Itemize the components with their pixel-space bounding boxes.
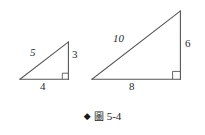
large-triangle-hypotenuse-edge [92, 11, 180, 79]
small-triangle-right-angle-icon [62, 73, 68, 79]
large-triangle-right-angle-icon [173, 71, 181, 79]
small-triangle-vertical-leg-label: 3 [72, 49, 78, 60]
figure-container: 5 3 4 10 6 8 ◆ 圖 5-4 [0, 0, 205, 135]
caption-cjk-label: 圖 [94, 112, 104, 122]
caption-figure-number: 5-4 [107, 111, 122, 122]
large-triangle-base-label: 8 [129, 81, 135, 92]
figure-caption: ◆ 圖 5-4 [0, 111, 205, 122]
small-triangle-shape [20, 42, 68, 79]
diamond-bullet-icon: ◆ [84, 112, 91, 121]
large-triangle-vertical-leg-label: 6 [185, 38, 191, 49]
small-triangle-hypotenuse-label: 5 [30, 47, 36, 58]
large-triangle-shape [92, 11, 180, 79]
small-triangle-hypotenuse-edge [20, 42, 68, 79]
small-triangle-base-label: 4 [40, 81, 46, 92]
large-triangle-hypotenuse-label: 10 [113, 33, 124, 44]
